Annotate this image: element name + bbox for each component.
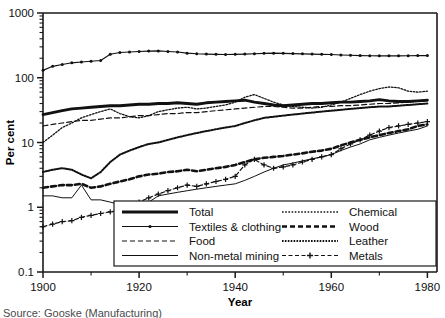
series-marker — [213, 179, 218, 184]
legend-label-chemical[interactable]: Chemical — [349, 206, 397, 218]
figure-container: 0.1110100100019001920194019601980YearPer… — [0, 0, 445, 318]
y-tick-label: 1 — [28, 201, 34, 213]
series-marker — [50, 221, 55, 226]
series-marker — [263, 52, 266, 55]
series-marker — [387, 54, 390, 57]
x-tick-label: 1920 — [126, 281, 152, 293]
series-marker — [157, 49, 160, 52]
series-marker — [386, 125, 391, 130]
series-marker — [329, 152, 334, 157]
series-line-non-metal-mining — [43, 126, 427, 212]
series-marker — [319, 154, 324, 159]
series-marker — [51, 65, 54, 68]
series-marker — [223, 177, 228, 182]
series-marker — [397, 54, 400, 57]
series-marker — [138, 50, 141, 53]
series-marker — [195, 52, 198, 55]
series-marker — [261, 162, 266, 167]
series-marker — [165, 188, 170, 193]
series-marker — [272, 52, 275, 55]
log-line-chart: 0.1110100100019001920194019601980YearPer… — [0, 0, 445, 318]
x-tick-label: 1940 — [222, 281, 248, 293]
series-marker — [99, 59, 102, 62]
series-marker — [88, 213, 93, 218]
series-marker — [60, 219, 65, 224]
series-marker — [204, 181, 209, 186]
series-marker — [175, 185, 180, 190]
series-marker — [214, 53, 217, 56]
series-marker — [79, 215, 84, 220]
series-marker — [166, 50, 169, 53]
series-marker — [40, 224, 45, 229]
series-marker — [378, 54, 381, 57]
legend-label-wood[interactable]: Wood — [349, 221, 379, 233]
series-marker — [118, 51, 121, 54]
series-marker — [282, 52, 285, 55]
series-marker — [339, 53, 342, 56]
y-tick-label: 100 — [15, 72, 34, 84]
series-marker — [61, 63, 64, 66]
legend-swatch-marker — [148, 225, 151, 228]
y-axis-title: Per cent — [4, 120, 16, 166]
legend-label-leather[interactable]: Leather — [349, 235, 388, 247]
series-marker — [359, 54, 362, 57]
series-marker — [80, 61, 83, 64]
x-tick-label: 1900 — [30, 281, 56, 293]
series-marker — [416, 54, 419, 57]
legend-label-food[interactable]: Food — [189, 235, 215, 247]
series-marker — [396, 123, 401, 128]
series-marker — [108, 209, 113, 214]
series-marker — [224, 53, 227, 56]
series-line-leather — [43, 104, 427, 179]
series-marker — [349, 54, 352, 57]
series-marker — [186, 52, 189, 55]
series-marker — [252, 157, 257, 162]
series-line-food — [43, 100, 427, 126]
series-marker — [407, 54, 410, 57]
series-marker — [311, 53, 314, 56]
x-tick-label: 1960 — [318, 281, 344, 293]
y-tick-label: 1000 — [8, 7, 34, 19]
series-marker — [253, 52, 256, 55]
series-marker — [425, 119, 430, 124]
series-marker — [271, 166, 276, 171]
series-marker — [42, 69, 45, 72]
legend-label-total[interactable]: Total — [189, 206, 213, 218]
series-marker — [109, 53, 112, 56]
series-marker — [128, 50, 131, 53]
series-marker — [194, 184, 199, 189]
series-marker — [377, 129, 382, 134]
figure-caption: Source: Gooske (Manufacturing) — [3, 307, 162, 318]
series-marker — [406, 122, 411, 127]
series-marker — [291, 52, 294, 55]
series-marker — [368, 54, 371, 57]
y-tick-label: 0.1 — [18, 266, 34, 278]
series-marker — [309, 157, 314, 162]
legend-label-metals[interactable]: Metals — [349, 250, 383, 262]
series-marker — [205, 53, 208, 56]
series-marker — [90, 60, 93, 63]
x-tick-label: 1980 — [415, 281, 441, 293]
y-tick-label: 10 — [21, 137, 34, 149]
series-marker — [301, 52, 304, 55]
series-marker — [146, 195, 151, 200]
series-marker — [320, 53, 323, 56]
series-marker — [426, 54, 429, 57]
plot-area: 0.1110100100019001920194019601980YearPer… — [4, 7, 440, 308]
series-marker — [243, 53, 246, 56]
series-marker — [176, 50, 179, 53]
series-marker — [147, 50, 150, 53]
series-marker — [234, 53, 237, 56]
legend-label-textiles-clothing[interactable]: Textiles & clothing — [189, 221, 281, 233]
series-marker — [330, 53, 333, 56]
x-axis-title: Year — [228, 296, 253, 308]
legend-label-non-metal-mining[interactable]: Non-metal mining — [189, 250, 279, 262]
series-marker — [98, 211, 103, 216]
series-marker — [185, 182, 190, 187]
series-marker — [69, 218, 74, 223]
series-marker — [70, 61, 73, 64]
